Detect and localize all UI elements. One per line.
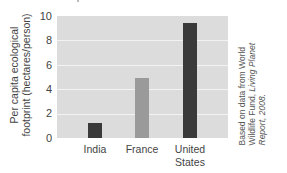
plot-area [57,16,228,138]
source-line-3: Report, 2008. [257,10,267,145]
bar-united-states [183,23,197,138]
y-axis-title-line-2: footprint (hectares/person) [20,10,32,140]
source-line-3-italic: Report, 2008. [257,93,267,145]
source-line-2: Wildlife Fund, Living Planet [247,10,257,145]
x-label-france: France [117,143,167,156]
y-axis-title-line-1: Per capita ecological [8,10,20,140]
source-annotation: Based on data from World Wildlife Fund, … [228,10,276,145]
source-line-2-italic: Living Planet [247,42,257,91]
y-tick-0: 0 [38,133,52,144]
source-line-1: Based on data from World [237,10,247,145]
y-tick-10: 10 [38,11,52,22]
x-label-us-line-2: States [165,156,215,169]
bar-france [135,78,149,138]
cropped-title-fragment [77,0,79,2]
bar-india [88,123,102,138]
y-tick-8: 8 [38,35,52,46]
gridline-8 [57,40,228,41]
y-tick-6: 6 [38,60,52,71]
y-tick-4: 4 [38,84,52,95]
source-line-2-plain: Wildlife Fund, [247,91,257,145]
x-label-india: India [70,143,120,156]
x-label-united-states: United States [165,143,215,169]
gridline-6 [57,65,228,66]
y-axis-title: Per capita ecological footprint (hectare… [2,10,38,140]
x-label-us-line-1: United [165,143,215,156]
y-tick-2: 2 [38,108,52,119]
